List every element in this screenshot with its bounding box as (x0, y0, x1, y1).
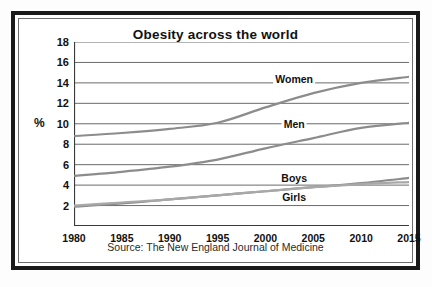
series-label-girls: Girls (280, 191, 308, 203)
plot-area: 1816141210864219801985199019952000200520… (74, 42, 409, 226)
y-axis-tick-label: 18 (57, 36, 69, 48)
y-axis-tick-label: 12 (57, 97, 69, 109)
plot-svg (74, 42, 409, 226)
chart-title: Obesity across the world (19, 27, 412, 42)
y-axis-tick-label: 6 (63, 159, 69, 171)
series-label-boys: Boys (279, 172, 309, 184)
series-line-girls (74, 182, 409, 206)
y-axis-title: % (34, 116, 45, 130)
chart-screenshot: Obesity across the world % 1816141210864… (0, 0, 432, 287)
chart-inner-frame: Obesity across the world % 1816141210864… (18, 18, 413, 263)
y-axis-tick-label: 8 (63, 138, 69, 150)
series-line-men (74, 123, 409, 176)
y-axis-tick-label: 4 (63, 179, 69, 191)
y-axis-tick-label: 16 (57, 56, 69, 68)
source-note: Source: The New England Journal of Medic… (19, 241, 412, 253)
y-axis-tick-label: 10 (57, 118, 69, 130)
series-label-men: Men (282, 118, 307, 130)
y-axis-tick-label: 2 (63, 200, 69, 212)
chart-outer-frame: Obesity across the world % 1816141210864… (11, 11, 420, 270)
series-label-women: Women (273, 73, 315, 85)
y-axis-tick-label: 14 (57, 77, 69, 89)
series-line-women (74, 77, 409, 136)
